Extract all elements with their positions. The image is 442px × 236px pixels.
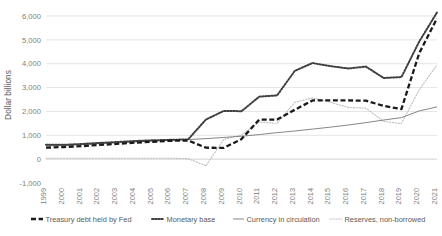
legend-label: Reserves, non-borrowed bbox=[345, 215, 426, 224]
x-tick-label: 2011 bbox=[252, 188, 261, 204]
x-tick-label: 2000 bbox=[57, 188, 66, 204]
x-tick-label: 2002 bbox=[92, 188, 101, 204]
x-axis-ticks: 1999200020012002200320042005200620072008… bbox=[39, 188, 439, 204]
x-tick-label: 2019 bbox=[394, 188, 403, 204]
y-tick-label: 6,000 bbox=[22, 12, 41, 21]
y-tick-label: 4,000 bbox=[22, 59, 41, 68]
y-tick-label: 2,000 bbox=[22, 107, 41, 116]
y-tick-label: 0 bbox=[37, 155, 41, 164]
x-tick-label: 2018 bbox=[377, 188, 386, 204]
y-tick-label: 1,000 bbox=[22, 131, 41, 140]
y-tick-label: 3,000 bbox=[22, 83, 41, 92]
y-tick-label: 5,000 bbox=[22, 36, 41, 45]
chart-container: -1,00001,0002,0003,0004,0005,0006,000 19… bbox=[0, 0, 442, 236]
y-tick-label: -1,000 bbox=[19, 179, 41, 188]
legend-label: Monetary base bbox=[167, 215, 216, 224]
x-tick-label: 2005 bbox=[146, 188, 155, 204]
x-tick-label: 2003 bbox=[110, 188, 119, 204]
x-tick-label: 2007 bbox=[181, 188, 190, 204]
x-tick-label: 2014 bbox=[306, 188, 315, 204]
line-chart: -1,00001,0002,0003,0004,0005,0006,000 19… bbox=[0, 0, 442, 236]
x-tick-label: 2021 bbox=[430, 188, 439, 204]
x-tick-label: 2010 bbox=[235, 188, 244, 204]
x-tick-label: 2009 bbox=[217, 188, 226, 204]
x-tick-label: 2020 bbox=[412, 188, 421, 204]
x-tick-label: 2006 bbox=[163, 188, 172, 204]
x-tick-label: 2001 bbox=[75, 188, 84, 204]
x-tick-label: 2004 bbox=[128, 188, 137, 204]
x-tick-label: 2012 bbox=[270, 188, 279, 204]
x-tick-label: 2016 bbox=[341, 188, 350, 204]
legend-label: Treasury debt held by Fed bbox=[46, 215, 132, 224]
x-tick-label: 2015 bbox=[323, 188, 332, 204]
x-tick-label: 2008 bbox=[199, 188, 208, 204]
legend-label: Currency in circulation bbox=[247, 215, 320, 224]
x-tick-label: 2013 bbox=[288, 188, 297, 204]
y-axis-title: Dollar billions bbox=[3, 70, 13, 120]
x-tick-label: 1999 bbox=[39, 188, 48, 204]
x-tick-label: 2017 bbox=[359, 188, 368, 204]
